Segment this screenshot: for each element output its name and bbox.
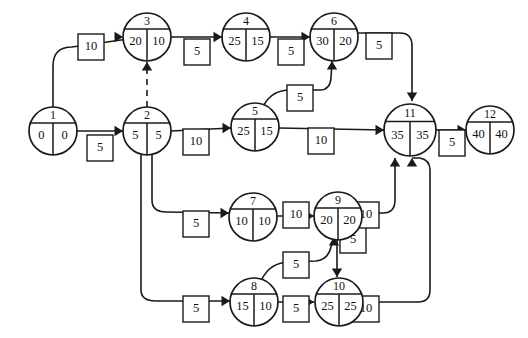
edge-label-1-3: 10	[78, 34, 104, 60]
edge-duration-text: 5	[193, 301, 199, 315]
node-id-text: 7	[250, 194, 256, 208]
edge-duration-text: 10	[290, 207, 303, 221]
node-9: 92020	[314, 192, 362, 240]
edge-label-8-10: 5	[283, 296, 309, 322]
node-1: 100	[29, 107, 77, 155]
edge-labels-layer: 10555105510555105551010	[78, 33, 465, 322]
edge-label-3-4: 5	[184, 39, 210, 65]
edge-duration-text: 5	[97, 140, 103, 154]
network-diagram-canvas: 10555105510555105551010 1002553201042515…	[0, 0, 528, 338]
node-2: 255	[123, 107, 171, 155]
node-7: 71010	[229, 193, 277, 241]
node-latest-time: 15	[251, 34, 264, 48]
node-5: 52515	[231, 103, 279, 151]
node-id-text: 1	[50, 108, 56, 122]
node-id-text: 12	[484, 107, 496, 121]
node-12: 124040	[466, 106, 514, 154]
node-id-text: 5	[252, 104, 258, 118]
edge-label-4-6: 5	[278, 39, 304, 65]
node-3: 32010	[123, 13, 171, 61]
node-earliest-time: 5	[132, 128, 138, 142]
node-earliest-time: 0	[38, 128, 44, 142]
edge-duration-text: 5	[288, 44, 294, 58]
edge-duration-text: 5	[194, 44, 200, 58]
edge-duration-text: 5	[193, 216, 199, 230]
node-id-text: 11	[404, 106, 416, 120]
network-diagram-svg: 10555105510555105551010 1002553201042515…	[0, 0, 528, 338]
node-earliest-time: 20	[320, 213, 333, 227]
node-id-text: 2	[144, 108, 150, 122]
node-id-text: 9	[335, 193, 341, 207]
edge-duration-text: 5	[297, 90, 303, 104]
edge-label-7-9: 10	[283, 202, 309, 228]
edge-duration-text: 5	[293, 301, 299, 315]
node-8: 81510	[230, 278, 278, 326]
node-earliest-time: 35	[391, 128, 404, 142]
node-id-text: 4	[243, 14, 249, 28]
edge-label-2-7: 5	[183, 211, 209, 237]
node-id-text: 10	[333, 279, 345, 293]
node-earliest-time: 25	[321, 299, 334, 313]
edge-2-to-7	[152, 155, 229, 218]
node-latest-time: 20	[339, 34, 352, 48]
edge-duration-text: 5	[449, 135, 455, 149]
edge-duration-text: 10	[190, 134, 203, 148]
edge-duration-text: 10	[315, 133, 328, 147]
node-latest-time: 0	[61, 128, 67, 142]
edge-10-to-11	[363, 158, 430, 302]
node-latest-time: 5	[155, 128, 161, 142]
edge-2-to-3	[142, 62, 152, 107]
node-id-text: 3	[144, 14, 150, 28]
node-earliest-time: 10	[235, 214, 248, 228]
node-latest-time: 40	[495, 127, 508, 141]
edge-label-2-5: 10	[183, 129, 209, 155]
node-11: 113535	[384, 104, 436, 156]
node-latest-time: 25	[344, 299, 357, 313]
node-latest-time: 10	[152, 34, 165, 48]
node-4: 42515	[222, 13, 270, 61]
node-id-text: 8	[251, 279, 257, 293]
edges-layer	[53, 32, 466, 307]
node-6: 63020	[310, 13, 358, 61]
edge-label-8-9: 5	[283, 252, 309, 278]
node-earliest-time: 25	[228, 34, 241, 48]
edge-label-1-2: 5	[87, 135, 113, 161]
edge-duration-text: 10	[85, 39, 98, 53]
node-latest-time: 10	[259, 299, 272, 313]
node-id-text: 6	[331, 14, 337, 28]
node-earliest-time: 25	[237, 124, 250, 138]
node-latest-time: 10	[258, 214, 271, 228]
edge-label-6-11: 5	[366, 33, 392, 59]
node-earliest-time: 40	[472, 127, 485, 141]
edge-label-11-12: 5	[439, 130, 465, 156]
node-10: 102525	[315, 278, 363, 326]
edge-duration-text: 5	[293, 257, 299, 271]
node-earliest-time: 15	[236, 299, 249, 313]
edge-label-2-8: 5	[183, 296, 209, 322]
node-latest-time: 35	[416, 128, 429, 142]
edge-label-5-6: 5	[287, 85, 313, 111]
node-latest-time: 15	[260, 124, 273, 138]
edge-duration-text: 5	[376, 38, 382, 52]
node-earliest-time: 20	[129, 34, 142, 48]
edge-label-5-11: 10	[308, 128, 334, 154]
node-earliest-time: 30	[316, 34, 329, 48]
node-latest-time: 20	[343, 213, 356, 227]
